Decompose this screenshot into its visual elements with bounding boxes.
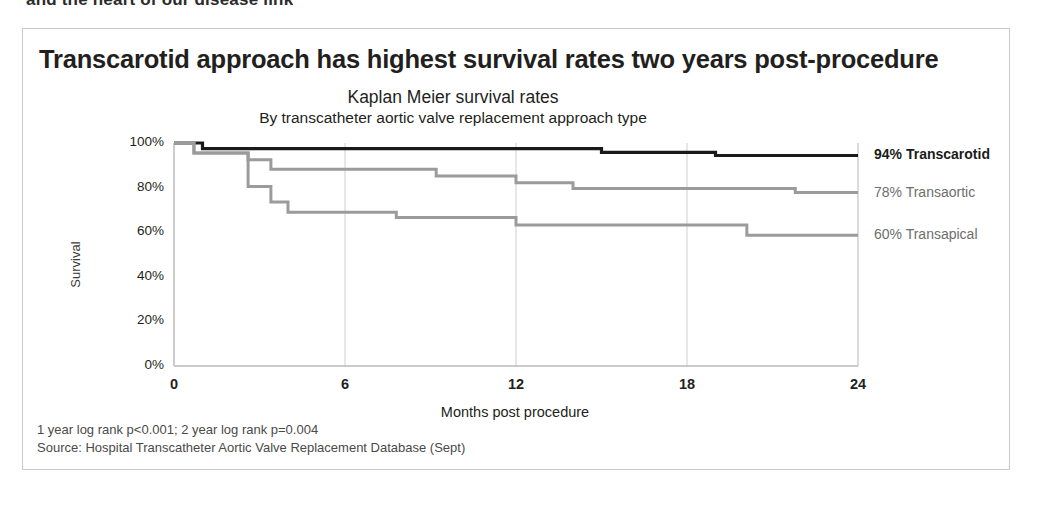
- y-axis-title: Survival: [68, 205, 83, 325]
- series-label-transcarotid: 94% Transcarotid: [874, 146, 990, 162]
- x-tick-label-24: 24: [838, 376, 878, 392]
- footnote-source: Source: Hospital Transcatheter Aortic Va…: [37, 439, 465, 457]
- y-tick-label-100: 100%: [106, 134, 164, 149]
- x-axis-title: Months post procedure: [173, 404, 857, 420]
- slide-card: Transcarotid approach has highest surviv…: [22, 28, 1010, 470]
- x-tick-label-6: 6: [325, 376, 365, 392]
- y-tick-label-40: 40%: [106, 268, 164, 283]
- x-tick-label-12: 12: [496, 376, 536, 392]
- footnotes: 1 year log rank p<0.001; 2 year log rank…: [37, 421, 465, 456]
- y-tick-label-20: 20%: [106, 312, 164, 327]
- x-tick-label-0: 0: [154, 376, 194, 392]
- x-tick-label-18: 18: [667, 376, 707, 392]
- chart-plot-area: Survival Months post procedure 0%20%40%6…: [23, 29, 1011, 471]
- series-label-transaortic: 78% Transaortic: [874, 184, 975, 200]
- y-tick-label-80: 80%: [106, 179, 164, 194]
- footnote-statistics: 1 year log rank p<0.001; 2 year log rank…: [37, 421, 465, 439]
- y-tick-label-60: 60%: [106, 223, 164, 238]
- clipped-header-fragment: and the heart of our disease link: [26, 0, 293, 8]
- series-label-transapical: 60% Transapical: [874, 226, 978, 242]
- y-tick-label-0: 0%: [106, 357, 164, 372]
